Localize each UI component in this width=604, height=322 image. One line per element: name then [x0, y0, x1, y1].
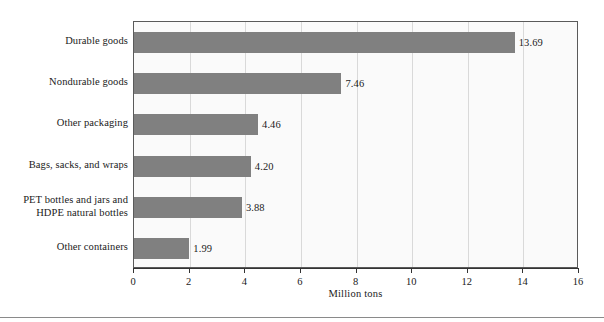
- x-axis-tick-label: 16: [573, 276, 584, 287]
- x-axis-tick: [578, 268, 579, 273]
- bar-row[interactable]: 7.46: [134, 73, 579, 94]
- bar[interactable]: [134, 156, 251, 177]
- x-axis: 0246810121416: [133, 268, 578, 269]
- x-axis-tick: [356, 268, 357, 273]
- x-axis-tick-label: 14: [517, 276, 528, 287]
- x-axis-tick: [522, 268, 523, 273]
- category-label-line: Durable goods: [0, 35, 128, 48]
- category-label: Nondurable goods: [0, 76, 128, 89]
- bar-value-label: 3.88: [246, 202, 265, 213]
- category-axis-labels: Durable goodsNondurable goodsOther packa…: [0, 21, 128, 268]
- bar-chart-figure: Durable goodsNondurable goodsOther packa…: [0, 0, 604, 322]
- x-axis-tick-label: 8: [353, 276, 358, 287]
- bottom-divider: [0, 317, 604, 318]
- bars-layer: 13.697.464.464.203.881.99: [134, 22, 577, 267]
- x-axis-tick-label: 12: [462, 276, 473, 287]
- category-label: Durable goods: [0, 35, 128, 48]
- bar-value-label: 13.69: [519, 37, 543, 48]
- x-axis-tick: [411, 268, 412, 273]
- category-label-line: Nondurable goods: [0, 76, 128, 89]
- x-axis-tick-label: 4: [242, 276, 247, 287]
- bar[interactable]: [134, 114, 258, 135]
- bar[interactable]: [134, 73, 341, 94]
- category-label-line: Bags, sacks, and wraps: [0, 159, 128, 172]
- category-label-line: Other containers: [0, 241, 128, 254]
- x-axis-tick-label: 2: [186, 276, 191, 287]
- x-axis-tick: [467, 268, 468, 273]
- category-label-line: PET bottles and jars and: [0, 194, 128, 207]
- bar-row[interactable]: 1.99: [134, 238, 579, 259]
- bar-row[interactable]: 4.46: [134, 114, 579, 135]
- bar[interactable]: [134, 32, 515, 53]
- bar-value-label: 4.46: [262, 119, 281, 130]
- x-axis-tick-label: 10: [406, 276, 417, 287]
- bar-value-label: 4.20: [255, 161, 274, 172]
- bar-row[interactable]: 3.88: [134, 197, 579, 218]
- category-label: PET bottles and jars andHDPE natural bot…: [0, 194, 128, 219]
- x-axis-tick: [133, 268, 134, 273]
- x-axis-tick: [300, 268, 301, 273]
- bar-row[interactable]: 13.69: [134, 32, 579, 53]
- x-axis-title: Million tons: [133, 288, 578, 299]
- category-label-line: Other packaging: [0, 117, 128, 130]
- x-axis-tick-label: 6: [297, 276, 302, 287]
- bar-row[interactable]: 4.20: [134, 156, 579, 177]
- category-label: Other containers: [0, 241, 128, 254]
- category-label-line: HDPE natural bottles: [0, 207, 128, 220]
- category-label: Other packaging: [0, 117, 128, 130]
- plot-area: 13.697.464.464.203.881.99: [133, 21, 578, 268]
- bar-value-label: 1.99: [193, 243, 212, 254]
- x-axis-tick-label: 0: [130, 276, 135, 287]
- x-axis-tick: [244, 268, 245, 273]
- x-axis-tick: [189, 268, 190, 273]
- bar[interactable]: [134, 238, 189, 259]
- bar[interactable]: [134, 197, 242, 218]
- category-label: Bags, sacks, and wraps: [0, 159, 128, 172]
- bar-value-label: 7.46: [345, 78, 364, 89]
